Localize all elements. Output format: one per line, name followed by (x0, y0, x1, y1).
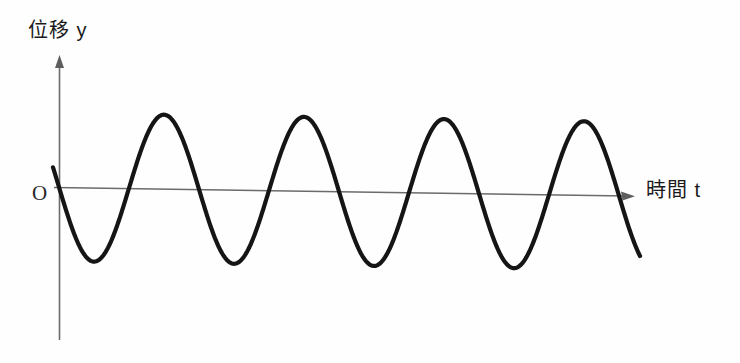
waveform-figure (0, 0, 740, 363)
origin-label: O (32, 183, 47, 204)
waveform-svg (0, 0, 740, 363)
y-axis-label: 位移 y (28, 20, 88, 40)
y-axis-arrowhead (55, 55, 64, 68)
t-axis-label: 時間 t (646, 180, 701, 200)
t-axis-arrowhead (621, 192, 635, 201)
